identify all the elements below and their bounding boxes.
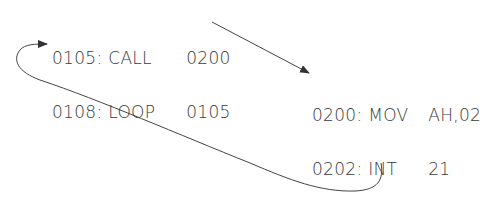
operand: 21 [428,160,450,178]
code-line-0108: 0108: LOOP0105 [52,103,231,121]
opcode: CALL [108,49,186,67]
code-line-0200: 0200: MOVAH,02 [312,106,481,124]
operand: AH,02 [428,106,481,124]
operand: 0105 [186,103,230,121]
code-line-0202: 0202: INT21 [312,160,481,178]
subroutine-code-block: 0200: MOVAH,02 0202: INT21 0204: INCDL 0… [312,70,481,202]
address: 0108: [52,103,103,121]
address: 0202: [312,160,363,178]
address: 0200: [312,106,363,124]
operand: 0200 [186,49,230,67]
main-code-block: 0105: CALL0200 0108: LOOP0105 [52,13,231,139]
code-line-0105: 0105: CALL0200 [52,49,231,67]
opcode: INT [368,160,428,178]
opcode: MOV [368,106,428,124]
opcode: LOOP [108,103,186,121]
address: 0105: [52,49,103,67]
